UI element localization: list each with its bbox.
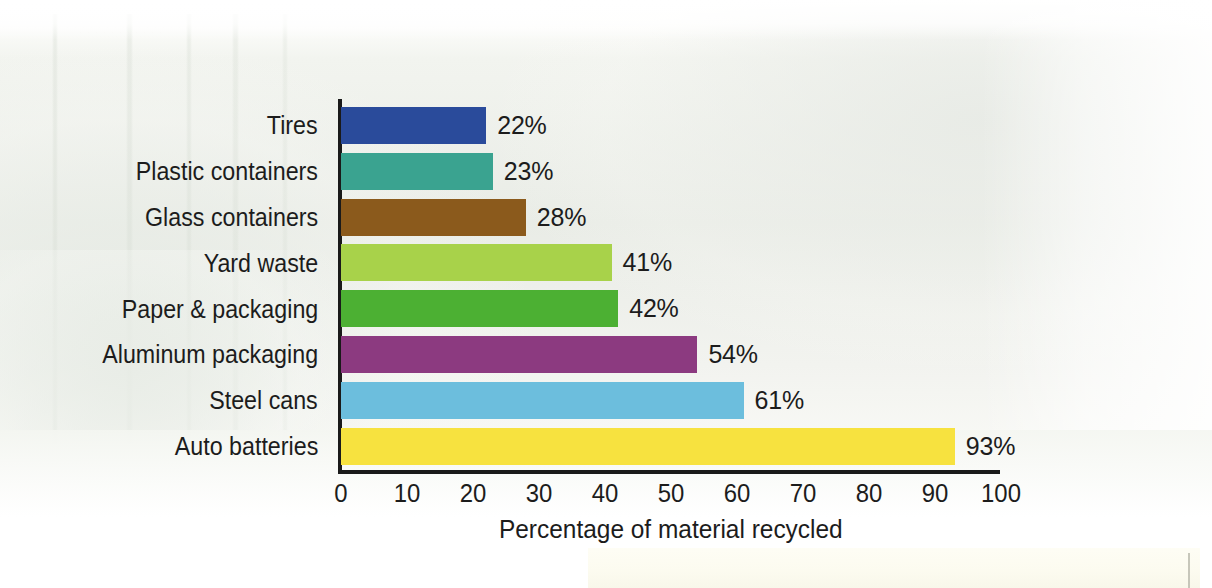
chart-page: TiresPlastic containersGlass containersY… bbox=[0, 0, 1212, 588]
bar bbox=[341, 428, 955, 465]
bar bbox=[341, 382, 744, 419]
bar-value-label: 28% bbox=[537, 203, 586, 232]
x-tick-label: 50 bbox=[658, 478, 685, 509]
bar-value-label: 22% bbox=[497, 111, 546, 140]
x-tick-label: 70 bbox=[790, 478, 817, 509]
category-label-row: Aluminum packaging bbox=[0, 332, 330, 378]
bar bbox=[341, 199, 526, 236]
recycling-bar-chart: TiresPlastic containersGlass containersY… bbox=[0, 0, 1212, 588]
bar-value-label: 93% bbox=[966, 432, 1015, 461]
x-axis-line bbox=[338, 470, 1000, 474]
bar-row: 54% bbox=[341, 332, 1001, 378]
x-axis-tick-labels: 0102030405060708090100 bbox=[0, 478, 1212, 512]
bar-row: 93% bbox=[341, 424, 1001, 470]
bar bbox=[341, 107, 486, 144]
category-axis-labels: TiresPlastic containersGlass containersY… bbox=[0, 103, 330, 470]
category-label-row: Tires bbox=[0, 103, 330, 149]
bar-value-label: 23% bbox=[504, 157, 553, 186]
bar-value-label: 42% bbox=[629, 294, 678, 323]
x-tick-label: 100 bbox=[981, 478, 1021, 509]
x-tick-label: 0 bbox=[334, 478, 347, 509]
bar bbox=[341, 336, 697, 373]
x-tick-label: 10 bbox=[394, 478, 421, 509]
category-label: Glass containers bbox=[145, 203, 318, 232]
bar-row: 41% bbox=[341, 240, 1001, 286]
bar-row: 23% bbox=[341, 149, 1001, 195]
category-label-row: Steel cans bbox=[0, 378, 330, 424]
category-label: Plastic containers bbox=[136, 157, 318, 186]
bar-series: 22%23%28%41%42%54%61%93% bbox=[341, 103, 1001, 470]
bar-value-label: 61% bbox=[755, 386, 804, 415]
x-tick-label: 90 bbox=[922, 478, 949, 509]
category-label: Auto batteries bbox=[175, 432, 318, 461]
x-tick-label: 20 bbox=[460, 478, 487, 509]
x-tick-label: 80 bbox=[856, 478, 883, 509]
bar-value-label: 41% bbox=[623, 248, 672, 277]
bar-row: 42% bbox=[341, 286, 1001, 332]
x-tick-label: 60 bbox=[724, 478, 751, 509]
category-label: Aluminum packaging bbox=[102, 340, 318, 369]
x-tick-label: 30 bbox=[526, 478, 553, 509]
bar-row: 28% bbox=[341, 195, 1001, 241]
x-tick-label: 40 bbox=[592, 478, 619, 509]
x-axis-title: Percentage of material recycled bbox=[341, 514, 1001, 545]
bar-row: 22% bbox=[341, 103, 1001, 149]
category-label: Paper & packaging bbox=[122, 295, 318, 324]
category-label-row: Auto batteries bbox=[0, 424, 330, 470]
category-label-row: Paper & packaging bbox=[0, 286, 330, 332]
category-label: Yard waste bbox=[203, 249, 318, 278]
bar-value-label: 54% bbox=[708, 340, 757, 369]
category-label: Steel cans bbox=[209, 386, 318, 415]
category-label: Tires bbox=[267, 111, 318, 140]
bar bbox=[341, 290, 618, 327]
bar-row: 61% bbox=[341, 378, 1001, 424]
category-label-row: Glass containers bbox=[0, 195, 330, 241]
bar bbox=[341, 244, 612, 281]
bar bbox=[341, 153, 493, 190]
category-label-row: Plastic containers bbox=[0, 149, 330, 195]
x-axis-title-text: Percentage of material recycled bbox=[499, 514, 843, 545]
category-label-row: Yard waste bbox=[0, 240, 330, 286]
